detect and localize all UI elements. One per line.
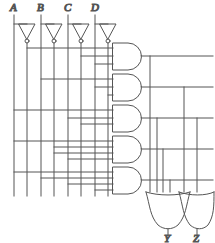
and-gate-2 xyxy=(113,74,142,101)
and-gate-3 xyxy=(113,105,142,132)
inverter-a xyxy=(19,24,35,43)
and-gate-1 xyxy=(113,43,142,70)
output-label-z: Z xyxy=(193,232,200,243)
and-gate-3-input-wires xyxy=(14,110,113,124)
output-label-y: Y xyxy=(164,232,172,243)
and-gate-4-input-wires xyxy=(14,141,113,159)
inverter-c xyxy=(73,24,89,43)
input-label-b: B xyxy=(37,1,44,13)
and-gate-5 xyxy=(113,167,142,194)
input-label-c: C xyxy=(64,1,72,13)
and-gate-5-input-wires xyxy=(14,172,113,190)
and-gate-4 xyxy=(113,136,142,163)
inverter-d xyxy=(100,24,116,43)
or-gate-z xyxy=(179,192,214,229)
input-label-d: D xyxy=(90,1,99,13)
circuit-svg: A B C D xyxy=(0,0,215,243)
and-gate-2-input-wires xyxy=(41,79,113,95)
and-gate-1-input-wires xyxy=(27,48,113,64)
circuit-diagram: A B C D xyxy=(0,0,215,243)
inverter-b xyxy=(46,24,62,43)
input-label-a: A xyxy=(9,1,17,13)
